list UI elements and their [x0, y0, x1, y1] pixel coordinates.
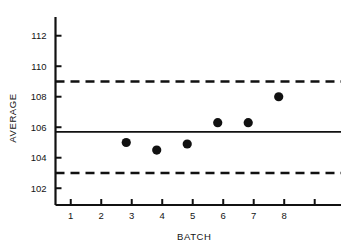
x-axis-tick-label: 4 [160, 210, 165, 221]
y-axis-tick-label: 108 [31, 91, 47, 102]
chart-canvas: 102104106108110112 12345678 BATCH AVERAG… [0, 0, 343, 247]
y-axis-tick-label: 106 [31, 122, 47, 133]
y-axis-title: AVERAGE [7, 93, 18, 142]
x-axis-tick-label: 5 [190, 210, 195, 221]
data-point [183, 139, 192, 148]
x-axis-tick-label: 6 [221, 210, 226, 221]
x-axis-tick-label: 2 [99, 210, 104, 221]
x-axis-tick-label: 7 [251, 210, 256, 221]
y-axis-tick-label: 110 [31, 61, 46, 72]
y-axis-tick-label: 112 [31, 30, 46, 41]
data-point [152, 146, 161, 155]
data-point [274, 92, 283, 101]
y-axis-tick-label: 102 [31, 183, 47, 194]
data-point [213, 118, 222, 127]
x-axis-tick-label: 1 [68, 210, 73, 221]
data-point [244, 118, 253, 127]
x-axis-tick-label: 8 [282, 210, 287, 221]
x-axis-tick-label: 3 [129, 210, 134, 221]
y-axis-tick-label: 104 [31, 152, 47, 163]
control-chart: 102104106108110112 12345678 BATCH AVERAG… [0, 0, 343, 247]
x-axis-title: BATCH [177, 231, 212, 242]
data-point [122, 138, 131, 147]
chart-background [0, 0, 343, 247]
